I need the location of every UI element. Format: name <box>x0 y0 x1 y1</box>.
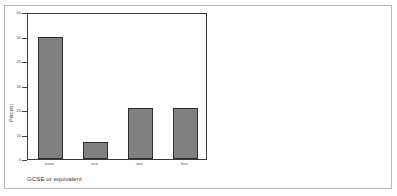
y-axis-tick-label: 60 <box>5 11 21 15</box>
y-axis-tick <box>22 160 27 161</box>
y-axis-tick-label: 0 <box>5 158 21 162</box>
y-axis-tick-label: 30 <box>5 84 21 88</box>
bar <box>83 142 107 159</box>
y-axis-title: Percent <box>9 104 14 122</box>
chart-canvas: 0102030405060 Percent noneonetwofour GCS… <box>0 0 397 196</box>
x-axis-tick-label: one <box>72 162 117 166</box>
x-axis-title: GCSE or equivalent <box>27 176 82 182</box>
x-axis-tick-label: four <box>162 162 207 166</box>
bar <box>128 108 152 159</box>
y-axis-tick-label: 50 <box>5 35 21 39</box>
x-axis-tick-label: none <box>27 162 72 166</box>
x-axis-tick-label: two <box>117 162 162 166</box>
bar <box>173 108 197 159</box>
y-axis-tick-label: 10 <box>5 133 21 137</box>
plot-frame <box>27 13 207 160</box>
y-axis-tick-label: 40 <box>5 60 21 64</box>
bar <box>38 37 62 160</box>
